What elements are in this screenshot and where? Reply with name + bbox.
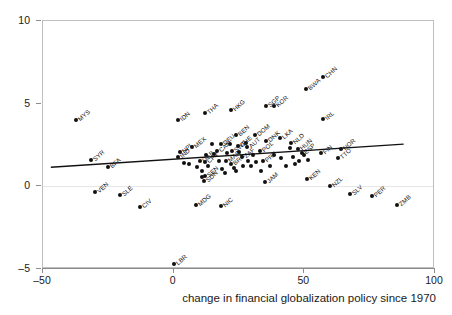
x-tick-label: 100 [414, 275, 452, 286]
plot-area: MYSSYRBFAVENSLECIVIDNTHAHKGSGPKORBWACHNI… [42, 20, 434, 268]
x-tick-mark [42, 268, 43, 273]
x-axis-title: change in financial globalization policy… [0, 292, 436, 304]
y-tick-label: 0 [4, 180, 30, 190]
y-tick-mark [36, 103, 41, 104]
scatter-plot-figure: –50510 MYSSYRBFAVENSLECIVIDNTHAHKGSGPKOR… [0, 0, 452, 315]
y-tick-mark [36, 268, 41, 269]
x-tick-label: 50 [283, 275, 323, 286]
x-tick-label: 0 [153, 275, 193, 286]
y-tick-mark [36, 20, 41, 21]
y-tick-label: 10 [4, 15, 30, 25]
x-tick-label: –50 [22, 275, 62, 286]
y-tick-label: –5 [4, 263, 30, 273]
x-tick-mark [434, 268, 435, 273]
y-tick-label: 5 [4, 98, 30, 108]
x-axis-line [42, 268, 434, 269]
x-tick-mark [303, 268, 304, 273]
trend-line [43, 21, 435, 269]
x-tick-mark [173, 268, 174, 273]
y-tick-mark [36, 185, 41, 186]
